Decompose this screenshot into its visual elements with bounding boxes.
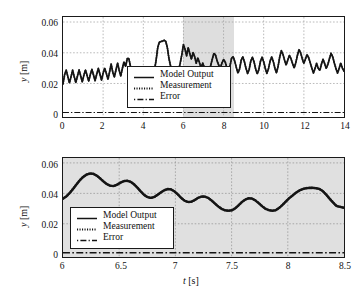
bottom-panel: y [m] 0 0.02 0.04 0.06 xyxy=(0,145,357,298)
bottom-panel-xlabel: t [s] xyxy=(183,275,199,286)
legend-entry-model-output: Model Output xyxy=(131,69,226,80)
dotted-line-icon xyxy=(131,80,157,91)
legend-label-error: Error xyxy=(100,232,123,243)
legend-label-model-output: Model Output xyxy=(157,69,214,80)
top-panel-ylabel: y [m] xyxy=(18,61,29,82)
dashdot-line-icon xyxy=(74,232,100,243)
figure-root: y [m] 0 0.02 0.04 0.06 xyxy=(0,0,357,298)
legend-entry-error: Error xyxy=(131,91,226,102)
bottom-ytick-002: 0.02 xyxy=(22,220,58,230)
top-xtick-0: 0 xyxy=(52,121,72,131)
top-xtick-4: 4 xyxy=(133,121,153,131)
top-xtick-10: 10 xyxy=(254,121,274,131)
top-xtick-2: 2 xyxy=(92,121,112,131)
legend-label-model-output: Model Output xyxy=(100,210,157,221)
top-xtick-14: 14 xyxy=(335,121,355,131)
bottom-xtick-7: 7 xyxy=(165,261,185,271)
bottom-ytick-006: 0.06 xyxy=(22,160,58,170)
legend-entry-measurement: Measurement xyxy=(131,80,226,91)
bottom-series-measurement xyxy=(63,173,344,210)
top-ytick-004: 0.04 xyxy=(22,49,58,59)
legend-label-error: Error xyxy=(157,91,180,102)
legend-entry-measurement: Measurement xyxy=(74,221,169,232)
top-xtick-6: 6 xyxy=(173,121,193,131)
top-panel: y [m] 0 0.02 0.04 0.06 xyxy=(0,0,357,145)
top-ytick-006: 0.06 xyxy=(22,18,58,28)
dashdot-line-icon xyxy=(131,91,157,102)
top-panel-legend: Model Output Measurement Error xyxy=(127,66,231,108)
bottom-xtick-8: 8 xyxy=(278,261,298,271)
legend-label-measurement: Measurement xyxy=(157,80,212,91)
solid-line-icon xyxy=(131,69,157,80)
legend-entry-model-output: Model Output xyxy=(74,210,169,221)
top-ytick-0: 0 xyxy=(22,110,58,120)
bottom-series-model-output xyxy=(63,173,344,210)
bottom-xtick-65: 6.5 xyxy=(105,261,137,271)
solid-line-icon xyxy=(74,210,100,221)
legend-entry-error: Error xyxy=(74,232,169,243)
bottom-xtick-6: 6 xyxy=(52,261,72,271)
bottom-panel-legend: Model Output Measurement Error xyxy=(70,207,174,249)
bottom-xtick-85: 8.5 xyxy=(329,261,357,271)
top-ytick-002: 0.02 xyxy=(22,80,58,90)
legend-label-measurement: Measurement xyxy=(100,221,155,232)
bottom-ytick-0: 0 xyxy=(22,250,58,260)
top-xtick-12: 12 xyxy=(295,121,315,131)
bottom-ytick-004: 0.04 xyxy=(22,190,58,200)
dotted-line-icon xyxy=(74,221,100,232)
bottom-xtick-75: 7.5 xyxy=(216,261,248,271)
top-xtick-8: 8 xyxy=(214,121,234,131)
